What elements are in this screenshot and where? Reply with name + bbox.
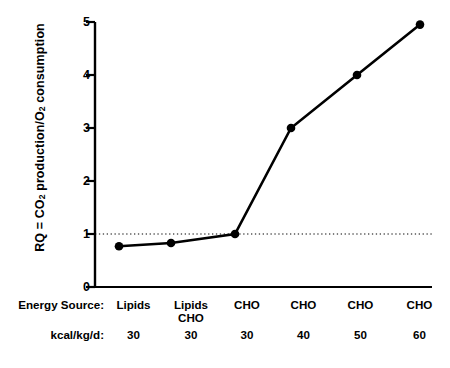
data-point-6 (416, 20, 425, 29)
kcal-cell-5: 50 (332, 328, 389, 341)
kcal-cell-1: 30 (104, 328, 163, 341)
data-point-2 (167, 239, 176, 248)
kcal-cell-3: 30 (219, 328, 275, 341)
data-point-1 (115, 242, 124, 251)
table-row-kcal: kcal/kg/d: 30 30 30 40 50 60 (0, 328, 450, 341)
energy-source-cell-1-line1: Lipids (104, 298, 163, 311)
data-point-5 (353, 71, 362, 80)
energy-source-cell-3-line1: CHO (219, 298, 275, 311)
energy-source-cell-6-line1: CHO (389, 298, 450, 311)
chart-figure: RQ = CO2 production/O2 consumption 5 4 3… (0, 0, 450, 368)
row-label-kcal: kcal/kg/d: (0, 328, 104, 341)
energy-source-cell-4-line1: CHO (275, 298, 332, 311)
row-label-energy-source: Energy Source: (0, 298, 104, 324)
table-row-energy-source: Energy Source: Lipids Lipids CHO CHO (0, 298, 450, 324)
kcal-cell-2: 30 (163, 328, 219, 341)
kcal-cell-6: 60 (389, 328, 450, 341)
data-point-3 (231, 230, 240, 239)
x-axis-table: Energy Source: Lipids Lipids CHO CHO (0, 298, 450, 341)
energy-source-cell-5: CHO (332, 298, 389, 324)
x-axis-category-table: Energy Source: Lipids Lipids CHO CHO (0, 298, 450, 341)
energy-source-cell-4: CHO (275, 298, 332, 324)
energy-source-cell-2: Lipids CHO (163, 298, 219, 324)
energy-source-cell-2-line1: Lipids (163, 298, 219, 311)
energy-source-cell-3: CHO (219, 298, 275, 324)
plot-area (0, 0, 450, 298)
kcal-cell-4: 40 (275, 328, 332, 341)
energy-source-cell-6: CHO (389, 298, 450, 324)
energy-source-cell-5-line1: CHO (332, 298, 389, 311)
data-point-4 (287, 124, 296, 133)
energy-source-cell-2-line2: CHO (163, 311, 219, 324)
data-series-markers (115, 20, 425, 250)
data-series-line (119, 25, 420, 247)
energy-source-cell-1: Lipids (104, 298, 163, 324)
